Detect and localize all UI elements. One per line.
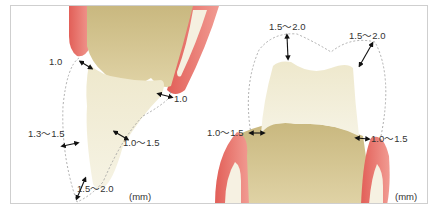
- label-anterior-labial: 1.3～1.5: [28, 129, 64, 139]
- arrow-labial: [63, 143, 77, 146]
- arrow-occlusal-right: [360, 44, 372, 65]
- label-anterior-lingual: 1.0～1.5: [123, 138, 159, 148]
- label-posterior-cervical-right: 1.0～1.5: [371, 134, 407, 144]
- anterior-tooth: [63, 6, 219, 202]
- diagram-frame: 1.0 1.0 1.3～1.5 1.0～1.5 1.5～2.0 (mm) 1.5…: [10, 5, 428, 204]
- unit-label-anterior: (mm): [129, 192, 151, 202]
- label-anterior-incisal-top: 1.0: [49, 57, 62, 67]
- arrow-occlusal-left: [287, 36, 288, 58]
- posterior-tooth: [215, 34, 390, 204]
- label-posterior-occlusal-left: 1.5～2.0: [269, 22, 305, 32]
- label-posterior-occlusal-right: 1.5～2.0: [349, 31, 385, 41]
- unit-label-posterior: (mm): [395, 192, 417, 202]
- label-posterior-cervical-left: 1.0～1.5: [207, 128, 243, 138]
- label-anterior-cervical-right: 1.0: [174, 94, 187, 104]
- label-anterior-incisal-edge: 1.5～2.0: [77, 184, 113, 194]
